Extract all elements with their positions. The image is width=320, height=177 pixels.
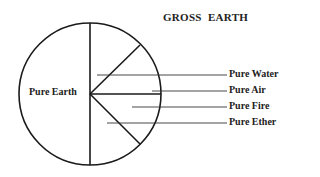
- diagram-title: GROSS EARTH: [163, 11, 248, 23]
- label-pure-ether: Pure Ether: [229, 116, 276, 127]
- lower-diagonal: [90, 94, 140, 144]
- label-pure-fire: Pure Fire: [229, 100, 269, 111]
- label-pure-air: Pure Air: [229, 84, 266, 95]
- label-pure-earth: Pure Earth: [29, 86, 77, 97]
- upper-diagonal: [90, 45, 140, 94]
- label-pure-water: Pure Water: [229, 68, 278, 79]
